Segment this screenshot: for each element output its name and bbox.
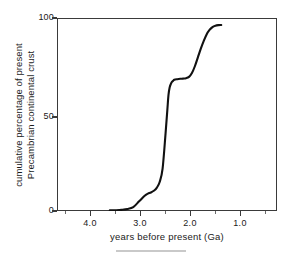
x-tick-mark-minor-0p5 xyxy=(265,211,266,214)
x-tick-label-3: 3.0 xyxy=(125,218,155,228)
x-tick-label-1: 1.0 xyxy=(225,218,255,228)
y-axis-title-line-1: cumulative percentage of present xyxy=(13,43,25,187)
crust-growth-curve xyxy=(57,18,277,211)
x-tick-mark-2 xyxy=(190,211,191,216)
x-tick-mark-4 xyxy=(90,211,91,216)
series-line-path xyxy=(110,25,221,210)
footer-rule xyxy=(116,250,186,252)
x-tick-mark-minor-2p5 xyxy=(165,211,166,214)
x-axis-title: years before present (Ga) xyxy=(57,231,277,242)
x-tick-mark-minor-3p5 xyxy=(115,211,116,214)
x-tick-label-2: 2.0 xyxy=(175,218,205,228)
y-axis-title-text: cumulative percentage of present Precamb… xyxy=(13,43,37,187)
chart-figure: cumulative percentage of present Precamb… xyxy=(0,0,292,259)
y-axis-title: cumulative percentage of present Precamb… xyxy=(10,18,40,211)
y-axis-title-line-2: Precambrian continental crust xyxy=(25,43,37,187)
x-tick-mark-1 xyxy=(240,211,241,216)
x-tick-label-4: 4.0 xyxy=(75,218,105,228)
x-tick-mark-3 xyxy=(140,211,141,216)
x-tick-mark-minor-1p5 xyxy=(215,211,216,214)
x-tick-mark-minor-4p5 xyxy=(65,211,66,214)
